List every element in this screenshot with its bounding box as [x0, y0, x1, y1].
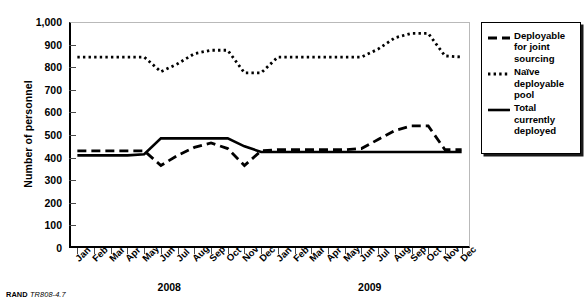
figure-container: Number of personnel 01002003004005006007…	[0, 0, 588, 305]
x-axis-group-label: 2009	[330, 281, 410, 293]
y-tick-mark	[69, 158, 76, 159]
legend-label: Total currently deployed	[514, 102, 556, 136]
y-tick-label: 200	[2, 197, 62, 209]
y-tick-label: 500	[2, 129, 62, 141]
legend-item: Total currently deployed	[488, 102, 580, 136]
y-tick-label: 300	[2, 174, 62, 186]
series-line	[77, 126, 461, 166]
y-tick-label: 800	[2, 61, 62, 73]
y-tick-label: 700	[2, 84, 62, 96]
y-tick-label: 600	[2, 106, 62, 118]
legend-swatch-dotted	[488, 67, 510, 80]
legend-item: Naïve deployable pool	[488, 66, 580, 100]
legend-label: Deployable for joint sourcing	[514, 30, 565, 64]
x-axis-group-label: 2008	[129, 281, 209, 293]
source-code: TR808-4.7	[30, 290, 66, 299]
y-tick-mark	[69, 203, 76, 204]
y-tick-mark	[69, 45, 76, 46]
y-tick-mark	[69, 225, 76, 226]
chart-legend: Deployable for joint sourcingNaïve deplo…	[481, 22, 581, 154]
x-tick-label: Jul	[174, 246, 192, 264]
y-tick-label: 900	[2, 39, 62, 51]
y-tick-mark	[69, 90, 76, 91]
y-axis-tick-labels: 01002003004005006007008009001,000	[0, 0, 67, 260]
series-line	[77, 138, 461, 155]
y-tick-label: 400	[2, 152, 62, 164]
legend-label: Naïve deployable pool	[514, 66, 564, 100]
y-tick-label: 0	[2, 242, 62, 254]
chart-series-layer	[69, 22, 470, 248]
figure-source-note: RAND TR808-4.7	[6, 290, 66, 299]
legend-swatch-dashed	[488, 31, 510, 44]
legend-item: Deployable for joint sourcing	[488, 30, 580, 64]
y-tick-label: 100	[2, 219, 62, 231]
y-tick-mark	[69, 180, 76, 181]
legend-swatch-solid	[488, 103, 510, 116]
y-tick-mark	[69, 112, 76, 113]
y-tick-mark	[69, 135, 76, 136]
series-line	[77, 33, 461, 73]
y-tick-label: 1,000	[2, 16, 62, 28]
y-tick-mark	[69, 67, 76, 68]
x-tick-label: Jul	[374, 246, 392, 264]
source-publisher: RAND	[6, 290, 28, 299]
